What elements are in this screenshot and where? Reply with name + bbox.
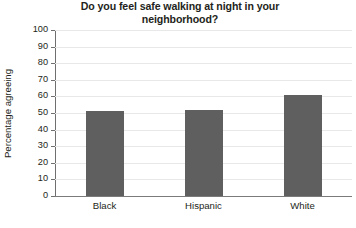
y-axis-tick-label-wrap: 90 (0, 42, 48, 52)
gridline (55, 30, 352, 31)
gridline (55, 80, 352, 81)
y-axis-tick-label: 10 (4, 174, 48, 183)
gridline (55, 47, 352, 48)
y-axis-tick-label: 20 (4, 158, 48, 167)
y-axis-tick-label-wrap: 0 (0, 191, 48, 201)
y-axis-tick-label-wrap: 50 (0, 108, 48, 118)
chart-title-line-2: neighborhood? (142, 13, 218, 25)
y-axis-tick-label-wrap: 20 (0, 158, 48, 168)
gridline (55, 63, 352, 64)
y-axis-tick-label-wrap: 30 (0, 141, 48, 151)
y-axis-tick-label: 100 (4, 25, 48, 34)
bar-chart: Do you feel safe walking at night in you… (0, 0, 356, 228)
y-axis-tick-label: 40 (4, 125, 48, 134)
y-axis-tick-label: 70 (4, 75, 48, 84)
chart-title: Do you feel safe walking at night in you… (40, 0, 320, 26)
y-axis-tick-label-wrap: 40 (0, 125, 48, 135)
x-axis-label: Black (55, 200, 154, 211)
y-axis-tick-label: 80 (4, 58, 48, 67)
x-axis-label: White (253, 200, 352, 211)
bar (284, 95, 322, 196)
y-axis-tick-label-wrap: 60 (0, 91, 48, 101)
y-axis-tick-label: 0 (4, 191, 48, 200)
y-axis-tick-label-wrap: 10 (0, 174, 48, 184)
bar (185, 110, 223, 196)
y-axis-tick-label: 30 (4, 141, 48, 150)
bar (86, 111, 124, 196)
y-axis-tick-label-wrap: 80 (0, 58, 48, 68)
y-axis-tick-label-wrap: 100 (0, 25, 48, 35)
chart-title-line-1: Do you feel safe walking at night in you… (81, 0, 279, 12)
y-axis-tick-label-wrap: 70 (0, 75, 48, 85)
x-axis-label: Hispanic (154, 200, 253, 211)
gridline (55, 196, 352, 197)
y-axis-tick-label: 90 (4, 42, 48, 51)
y-axis-tick-label: 60 (4, 91, 48, 100)
y-axis-tick-label: 50 (4, 108, 48, 117)
plot-area (55, 30, 352, 196)
